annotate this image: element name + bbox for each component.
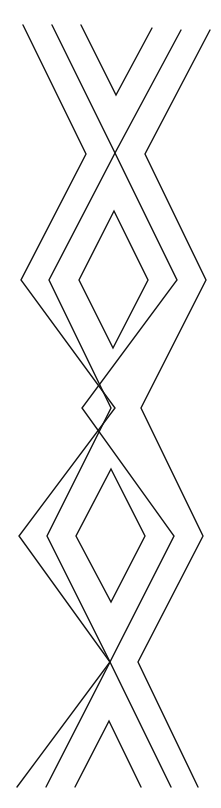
bottom-chevron xyxy=(75,721,141,787)
upper-inner-diamond xyxy=(79,211,148,348)
strand-outer-right xyxy=(138,30,210,787)
top-chevron xyxy=(81,25,152,95)
braided-diamond-pattern xyxy=(0,0,221,808)
pattern-canvas xyxy=(0,0,221,808)
strand-mid-right xyxy=(82,30,181,787)
lower-inner-diamond xyxy=(76,469,145,602)
strand-mid-left xyxy=(46,25,115,787)
strand-outer-left xyxy=(17,25,115,787)
